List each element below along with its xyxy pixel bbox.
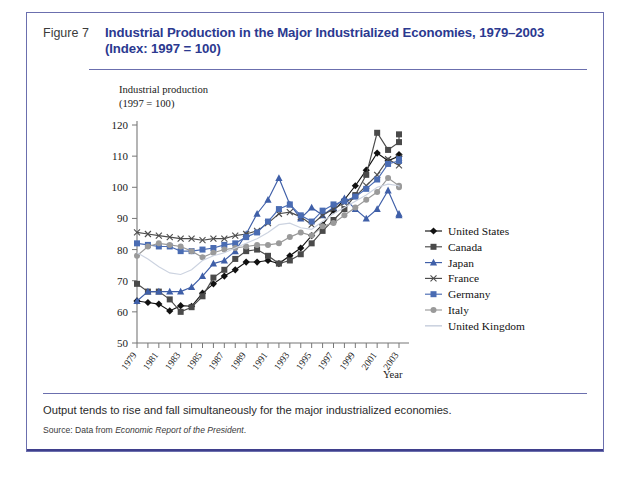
figure-number: Figure 7 — [43, 25, 105, 40]
legend-item-germany: Germany — [425, 288, 491, 300]
figure-source: Source: Data from Economic Report of the… — [43, 425, 587, 435]
data-point — [254, 229, 260, 235]
data-series-group — [133, 130, 402, 315]
data-point — [374, 205, 381, 212]
data-point — [352, 205, 358, 211]
legend-marker — [431, 244, 437, 250]
data-point — [298, 212, 304, 218]
x-tick-label: 1987 — [206, 350, 226, 372]
data-point — [287, 257, 293, 263]
legend-marker — [431, 291, 437, 297]
data-point — [276, 240, 282, 246]
data-point — [331, 201, 337, 207]
data-point — [265, 242, 271, 248]
data-point — [385, 175, 391, 181]
data-point — [331, 220, 337, 226]
data-point — [232, 266, 239, 273]
legend-item-japan: Japan — [425, 257, 474, 269]
data-point — [396, 131, 402, 137]
y-tick-label: 60 — [117, 306, 129, 318]
y-tick-label: 70 — [117, 275, 129, 287]
data-point — [308, 204, 315, 211]
data-point — [341, 198, 347, 204]
data-point — [352, 194, 358, 200]
y-axis-ticks: 5060708090100110120 — [112, 119, 138, 349]
data-point — [363, 186, 369, 192]
legend-label: France — [448, 272, 479, 284]
data-point — [167, 296, 173, 302]
data-point — [374, 130, 380, 136]
data-point — [264, 196, 271, 203]
data-point — [178, 243, 184, 249]
chart-area: Industrial production (1997 = 100) Year … — [27, 71, 605, 389]
data-point — [167, 242, 173, 248]
data-point — [221, 267, 227, 273]
axis-titles: Industrial production (1997 = 100) Year — [119, 84, 403, 380]
data-point — [298, 229, 304, 235]
data-point — [265, 219, 271, 225]
data-point — [200, 247, 206, 253]
y-tick-label: 50 — [117, 337, 129, 349]
y-tick-label: 120 — [112, 119, 129, 131]
data-point — [309, 240, 315, 246]
legend-label: United States — [448, 225, 510, 237]
figure-title-line2: (Index: 1997 = 100) — [105, 41, 544, 57]
legend-label: Japan — [448, 257, 474, 269]
series-japan — [133, 174, 402, 304]
x-tick-label: 1995 — [293, 350, 313, 372]
data-point — [178, 309, 184, 315]
data-point — [385, 161, 391, 167]
chart-legend: United StatesCanadaJapanFranceGermanyIta… — [425, 225, 525, 332]
data-point — [384, 187, 391, 194]
data-point — [200, 293, 206, 299]
data-point — [265, 253, 271, 259]
legend-label: United Kingdom — [448, 320, 525, 332]
legend-label: Canada — [448, 241, 482, 253]
figure-card: Figure 7 Industrial Production in the Ma… — [26, 12, 604, 452]
caption-block: Output tends to rise and fall simultaneo… — [43, 403, 587, 435]
source-title: Economic Report of the President — [115, 425, 244, 435]
x-tick-label: 1989 — [228, 350, 248, 372]
series-italy — [134, 175, 402, 260]
x-tick-label: 1997 — [315, 350, 335, 372]
figure-header: Figure 7 Industrial Production in the Ma… — [27, 13, 603, 65]
data-point — [189, 304, 195, 310]
data-point — [254, 242, 260, 248]
legend-item-france: France — [425, 272, 479, 284]
legend-marker — [430, 227, 437, 234]
data-point — [145, 243, 151, 249]
data-point — [166, 307, 173, 314]
legend-item-united-kingdom: United Kingdom — [425, 320, 525, 332]
data-point — [396, 139, 402, 145]
legend-item-canada: Canada — [425, 241, 482, 253]
header-divider — [89, 69, 587, 70]
data-point — [374, 189, 380, 195]
x-tick-label: 1993 — [271, 350, 291, 372]
data-point — [232, 256, 238, 262]
legend-item-united-states: United States — [425, 225, 510, 237]
data-point — [155, 300, 162, 307]
data-point — [341, 212, 347, 218]
data-point — [396, 156, 402, 162]
data-point — [210, 275, 216, 281]
legend-item-italy: Italy — [425, 304, 469, 316]
data-point — [363, 197, 369, 203]
data-point — [276, 206, 282, 212]
data-point — [287, 201, 293, 207]
y-axis-title-line1: Industrial production — [119, 84, 209, 95]
data-point — [156, 240, 162, 246]
data-point — [320, 223, 326, 229]
figure-caption: Output tends to rise and fall simultaneo… — [43, 403, 587, 418]
data-point — [134, 240, 140, 246]
caption-divider — [43, 393, 587, 394]
figure-title: Industrial Production in the Major Indus… — [105, 25, 544, 57]
y-tick-label: 80 — [117, 244, 129, 256]
source-prefix: Source: Data from — [43, 425, 115, 435]
data-point — [374, 177, 380, 183]
y-tick-label: 110 — [112, 150, 129, 162]
data-point — [374, 149, 381, 156]
y-axis-title-line2: (1997 = 100) — [119, 98, 175, 110]
x-axis-title: Year — [383, 369, 403, 380]
data-point — [385, 147, 391, 153]
data-point — [275, 174, 282, 181]
